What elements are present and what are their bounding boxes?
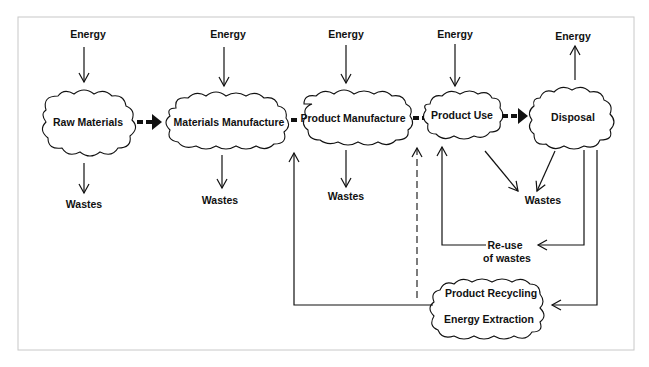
stage-label-materials-manufacture: Materials Manufacture: [174, 116, 285, 128]
recycling-arrow-to-materials-manufacture: [294, 153, 433, 305]
flow-arrow-raw-to-materials: [137, 114, 162, 130]
energy-label-product-manufacture: Energy: [328, 28, 364, 40]
life-cycle-diagram: Energy Energy Energy Energy Energy Raw M…: [0, 0, 649, 367]
waste-label-product-manufacture: Wastes: [328, 190, 365, 202]
reuse-label-line1: Re-use: [487, 239, 522, 251]
stage-label-product-manufacture: Product Manufacture: [300, 112, 405, 124]
waste-label-materials-manufacture: Wastes: [202, 194, 239, 206]
energy-label-raw-materials: Energy: [70, 28, 106, 40]
stage-label-raw-materials: Raw Materials: [53, 116, 123, 128]
energy-label-product-use: Energy: [437, 28, 473, 40]
waste-arrow-product-use: [485, 151, 518, 191]
waste-arrow-disposal: [537, 151, 555, 191]
recycling-label-line1: Product Recycling: [445, 287, 537, 299]
energy-label-disposal: Energy: [555, 30, 591, 42]
stage-label-product-use: Product Use: [431, 109, 493, 121]
flow-arrow-use-to-disposal: [502, 108, 528, 124]
recycling-label-line2: Energy Extraction: [444, 313, 534, 325]
recycling-arrow-from-disposal: [552, 150, 597, 305]
reuse-label-line2: of wastes: [483, 252, 531, 264]
reuse-arrow-to-product-use: [442, 147, 486, 245]
stage-label-disposal: Disposal: [551, 111, 595, 123]
waste-label-raw-materials: Wastes: [66, 198, 103, 210]
waste-label-use-disposal: Wastes: [525, 194, 562, 206]
energy-label-materials-manufacture: Energy: [210, 28, 246, 40]
